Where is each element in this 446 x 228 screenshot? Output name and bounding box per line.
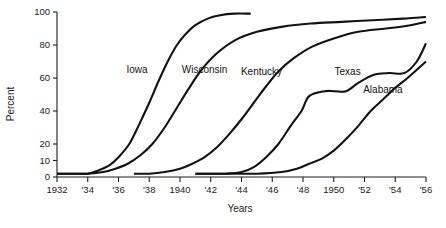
x-axis: 1932'34'36'381940'42'44'46'481950'52'54'… [46,177,432,195]
x-tick-label: '54 [389,184,401,195]
series-label-texas: Texas [335,66,361,77]
series-curve-wisconsin [57,17,426,174]
x-tick-label: '56 [420,184,432,195]
x-tick-label: '52 [358,184,370,195]
y-tick-label: 100 [34,6,50,17]
line-chart: 01020406080100 1932'34'36'381940'42'44'4… [0,0,446,228]
y-tick-label: 0 [45,171,50,182]
series-curve-texas [195,43,426,173]
x-tick-label: '48 [297,184,309,195]
y-tick-label: 60 [39,72,50,83]
x-tick-label: 1940 [169,184,190,195]
series-label-kentucky: Kentucky [241,66,282,77]
series-label-alabama: Alabama [363,84,403,95]
y-tick-label: 10 [39,155,50,166]
x-axis-title: Years [227,203,252,214]
y-axis-title: Percent [5,87,16,122]
y-tick-label: 20 [39,138,50,149]
x-tick-label: 1950 [323,184,344,195]
y-tick-label: 80 [39,39,50,50]
series-curve-alabama [195,62,426,174]
y-tick-label: 40 [39,105,50,116]
x-tick-label: '46 [266,184,278,195]
x-tick-label: '42 [205,184,217,195]
series-curve-iowa [57,14,251,174]
x-tick-label: '36 [112,184,124,195]
series-labels: IowaWisconsinKentuckyTexasAlabama [126,64,403,95]
x-tick-label: 1932 [46,184,67,195]
chart-container: 01020406080100 1932'34'36'381940'42'44'4… [0,0,446,228]
x-tick-label: '38 [143,184,155,195]
series-label-iowa: Iowa [126,64,148,75]
x-tick-label: '44 [235,184,247,195]
y-axis: 01020406080100 [34,6,57,182]
series-label-wisconsin: Wisconsin [182,64,228,75]
x-tick-label: '34 [82,184,94,195]
